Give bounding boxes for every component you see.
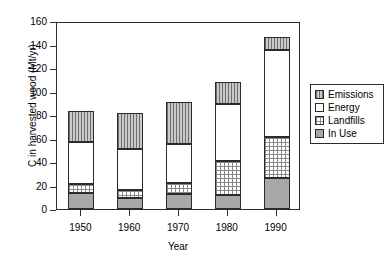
y-tick-label: 100 (7, 88, 47, 98)
bar-segment-landfills[interactable] (68, 184, 94, 192)
bar-segment-landfills[interactable] (166, 183, 192, 194)
vertical-hatch-swatch (315, 90, 324, 99)
y-tick-label: 60 (7, 135, 47, 145)
plot-area (56, 22, 300, 210)
bar-segment-in-use[interactable] (215, 195, 241, 209)
bar-segment-in-use[interactable] (68, 193, 94, 209)
y-tick-label: 120 (7, 64, 47, 74)
bar-segment-emissions[interactable] (166, 102, 192, 144)
x-tick-mark (276, 210, 277, 216)
bar-segment-energy[interactable] (68, 142, 94, 184)
y-tick-label: 20 (7, 182, 47, 192)
bar-segment-energy[interactable] (166, 144, 192, 183)
x-tick-mark (227, 210, 228, 216)
legend-item-label: Landfills (328, 116, 365, 126)
bar-segment-landfills[interactable] (117, 190, 143, 198)
bar-segment-emissions[interactable] (215, 82, 241, 104)
white-swatch (315, 103, 324, 112)
legend-item-in-use[interactable]: In Use (315, 127, 380, 140)
chart-figure: C in harvested wood (Mt/yr) 020406080100… (0, 0, 391, 263)
dotted-swatch (315, 116, 324, 125)
bar-segment-emissions[interactable] (264, 37, 290, 50)
stacked-bar[interactable] (68, 21, 94, 209)
bar-segment-in-use[interactable] (117, 198, 143, 209)
y-tick-label: 140 (7, 41, 47, 51)
bar-segment-landfills[interactable] (264, 137, 290, 178)
bar-segment-emissions[interactable] (68, 111, 94, 142)
legend-item-label: Emissions (328, 90, 374, 100)
bar-segment-in-use[interactable] (264, 178, 290, 209)
x-tick-mark (80, 210, 81, 216)
x-tick-mark (129, 210, 130, 216)
stacked-bar[interactable] (264, 21, 290, 209)
bar-segment-energy[interactable] (264, 50, 290, 137)
legend-item-landfills[interactable]: Landfills (315, 114, 380, 127)
bar-segment-energy[interactable] (215, 104, 241, 160)
legend-item-label: In Use (328, 129, 357, 139)
bar-segment-energy[interactable] (117, 149, 143, 190)
stacked-bar[interactable] (117, 21, 143, 209)
legend-item-energy[interactable]: Energy (315, 101, 380, 114)
y-tick-label: 0 (7, 205, 47, 215)
x-axis-title: Year (56, 241, 300, 252)
legend-item-emissions[interactable]: Emissions (315, 88, 380, 101)
bar-segment-in-use[interactable] (166, 194, 192, 209)
x-tick-mark (178, 210, 179, 216)
y-axis-title: C in harvested wood (Mt/yr) (27, 11, 38, 201)
y-tick-label: 40 (7, 158, 47, 168)
bar-segment-landfills[interactable] (215, 161, 241, 195)
stacked-bar[interactable] (166, 21, 192, 209)
solid-gray-swatch (315, 129, 324, 138)
legend-item-label: Energy (328, 103, 360, 113)
y-tick-mark (50, 210, 56, 211)
y-tick-label: 80 (7, 111, 47, 121)
chart-legend: EmissionsEnergyLandfillsIn Use (310, 84, 384, 144)
bar-segment-emissions[interactable] (117, 113, 143, 149)
y-tick-label: 160 (7, 17, 47, 27)
stacked-bar[interactable] (215, 21, 241, 209)
x-tick-label: 1990 (246, 222, 306, 233)
